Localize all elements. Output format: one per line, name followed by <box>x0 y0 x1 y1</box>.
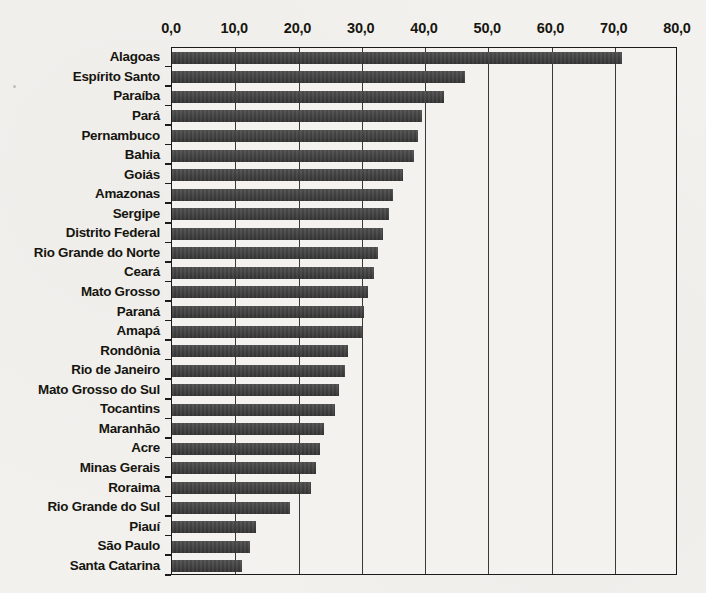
y-category-label: Maranhão <box>0 422 160 435</box>
x-tick-label: 10,0 <box>221 20 248 36</box>
bar <box>172 91 444 103</box>
bar <box>172 228 383 240</box>
bar <box>172 247 378 259</box>
y-tick-mark <box>165 359 171 361</box>
y-tick-mark <box>165 242 171 244</box>
y-category-label: Goiás <box>0 168 160 181</box>
y-tick-mark <box>165 222 171 224</box>
y-category-label: Pernambuco <box>0 129 160 142</box>
y-category-label: Paraíba <box>0 89 160 102</box>
x-tick-label: 80,0 <box>663 20 690 36</box>
y-category-label: Ceará <box>0 265 160 278</box>
gridline-50-0 <box>488 48 489 574</box>
y-category-label: Roraima <box>0 481 160 494</box>
y-tick-mark <box>165 320 171 322</box>
y-tick-mark <box>165 281 171 283</box>
bar <box>172 189 393 201</box>
x-tick-label: 50,0 <box>474 20 501 36</box>
y-category-label: Santa Catarina <box>0 559 160 572</box>
x-tick-label: 60,0 <box>537 20 564 36</box>
gridline-40-0 <box>425 48 426 574</box>
y-tick-mark <box>165 515 171 517</box>
bar <box>172 52 622 64</box>
x-tick-label: 70,0 <box>600 20 627 36</box>
y-tick-mark <box>165 378 171 380</box>
x-tick-label: 30,0 <box>347 20 374 36</box>
bar <box>172 541 250 553</box>
y-category-label: Paraná <box>0 305 160 318</box>
y-category-label: Distrito Federal <box>0 226 160 239</box>
plot-area <box>171 47 677 575</box>
x-tick-label: 0,0 <box>161 20 181 36</box>
bar <box>172 326 362 338</box>
y-category-label: Minas Gerais <box>0 461 160 474</box>
y-tick-mark <box>165 300 171 302</box>
bar <box>172 110 422 122</box>
y-category-label: Rio Grande do Sul <box>0 500 160 513</box>
bar <box>172 560 242 572</box>
y-tick-mark <box>165 261 171 263</box>
bar <box>172 208 389 220</box>
y-category-label: Rondônia <box>0 344 160 357</box>
y-tick-mark <box>165 105 171 107</box>
y-tick-mark <box>165 574 171 576</box>
bar-chart-figure: 0,010,020,030,040,050,060,070,080,0 Alag… <box>0 0 706 593</box>
y-tick-mark <box>165 183 171 185</box>
y-tick-mark <box>165 554 171 556</box>
y-tick-mark <box>165 144 171 146</box>
bar <box>172 267 374 279</box>
y-category-label: Alagoas <box>0 50 160 63</box>
bar <box>172 365 345 377</box>
bar <box>172 169 403 181</box>
y-tick-mark <box>165 476 171 478</box>
y-category-label: São Paulo <box>0 539 160 552</box>
y-category-label: Amazonas <box>0 187 160 200</box>
y-category-label: Bahia <box>0 148 160 161</box>
y-category-label: Rio de Janeiro <box>0 363 160 376</box>
y-category-label: Piauí <box>0 520 160 533</box>
y-tick-mark <box>165 202 171 204</box>
y-tick-mark <box>165 163 171 165</box>
y-category-label: Tocantins <box>0 402 160 415</box>
bar <box>172 286 368 298</box>
bar <box>172 443 320 455</box>
y-tick-mark <box>165 418 171 420</box>
y-tick-mark <box>165 339 171 341</box>
y-tick-mark <box>165 457 171 459</box>
bar <box>172 345 348 357</box>
bar <box>172 306 364 318</box>
y-tick-mark <box>165 66 171 68</box>
bar <box>172 462 316 474</box>
bar <box>172 404 335 416</box>
bar <box>172 521 256 533</box>
bar <box>172 502 290 514</box>
y-category-label: Mato Grosso <box>0 285 160 298</box>
y-category-label: Amapá <box>0 324 160 337</box>
y-tick-mark <box>165 437 171 439</box>
y-tick-mark <box>165 124 171 126</box>
x-tick-label: 20,0 <box>284 20 311 36</box>
bar <box>172 482 311 494</box>
bar <box>172 130 418 142</box>
y-category-label: Mato Grosso do Sul <box>0 383 160 396</box>
y-category-label: Acre <box>0 441 160 454</box>
y-category-label: Pará <box>0 109 160 122</box>
bar <box>172 384 339 396</box>
gridline-60-0 <box>552 48 553 574</box>
y-category-label: Sergipe <box>0 207 160 220</box>
bar <box>172 71 465 83</box>
bar <box>172 423 324 435</box>
x-tick-label: 40,0 <box>410 20 437 36</box>
y-tick-mark <box>165 398 171 400</box>
scan-speck <box>13 85 16 88</box>
gridline-70-0 <box>615 48 616 574</box>
y-tick-mark <box>165 535 171 537</box>
y-category-label: Rio Grande do Norte <box>0 246 160 259</box>
y-category-label: Espírito Santo <box>0 70 160 83</box>
y-tick-mark <box>165 85 171 87</box>
y-tick-mark <box>165 496 171 498</box>
bar <box>172 150 414 162</box>
